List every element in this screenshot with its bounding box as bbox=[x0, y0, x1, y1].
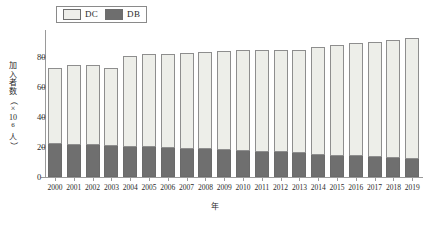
x-axis-line bbox=[45, 177, 423, 178]
x-axis-tick bbox=[299, 177, 300, 181]
bar-2019 bbox=[405, 38, 419, 178]
bar-segment-db bbox=[180, 149, 194, 178]
bar-2010 bbox=[236, 50, 250, 178]
bar-2000 bbox=[48, 68, 62, 178]
bar-2016 bbox=[349, 43, 363, 177]
x-axis-tick bbox=[412, 177, 413, 181]
x-axis-tick-label: 2001 bbox=[66, 183, 81, 192]
bar-segment-db bbox=[198, 149, 212, 177]
bar-segment-dc bbox=[330, 45, 344, 156]
x-axis-tick-label: 2016 bbox=[348, 183, 363, 192]
bar-2007 bbox=[180, 53, 194, 178]
bar-segment-dc bbox=[217, 51, 231, 151]
bar-2013 bbox=[292, 50, 306, 178]
bar-segment-dc bbox=[311, 47, 325, 155]
bar-segment-dc bbox=[180, 53, 194, 149]
x-axis-tick bbox=[130, 177, 131, 181]
bar-segment-dc bbox=[274, 50, 288, 152]
bar-segment-db bbox=[311, 155, 325, 177]
bar-2001 bbox=[67, 65, 81, 177]
x-axis-tick-label: 2018 bbox=[386, 183, 401, 192]
legend-label-dc: DC bbox=[85, 10, 98, 19]
bar-segment-dc bbox=[48, 68, 62, 145]
bar-segment-dc bbox=[368, 42, 382, 157]
bar-2009 bbox=[217, 51, 231, 177]
bar-segment-db bbox=[217, 150, 231, 177]
bar-2008 bbox=[198, 52, 212, 177]
x-axis-tick bbox=[205, 177, 206, 181]
bar-2012 bbox=[274, 50, 288, 177]
bar-segment-db bbox=[368, 157, 382, 177]
x-axis-tick bbox=[375, 177, 376, 181]
bar-2003 bbox=[104, 68, 118, 177]
y-axis-title-char-4: （ bbox=[9, 93, 18, 109]
bar-segment-db bbox=[255, 152, 269, 178]
legend-swatch-icon-db bbox=[105, 9, 123, 20]
bar-segment-dc bbox=[236, 50, 250, 152]
x-axis-tick-label: 2008 bbox=[198, 183, 213, 192]
bar-segment-db bbox=[236, 151, 250, 177]
bar-2017 bbox=[368, 42, 382, 177]
bar-segment-dc bbox=[405, 38, 419, 159]
chart-legend: DC DB bbox=[56, 6, 147, 23]
x-axis-tick-label: 2019 bbox=[405, 183, 420, 192]
y-axis-title: 加 入 者 数 （ × 106 人 ） bbox=[5, 62, 21, 151]
x-axis-tick bbox=[187, 177, 188, 181]
bar-segment-dc bbox=[142, 54, 156, 147]
x-axis-tick bbox=[356, 177, 357, 181]
x-axis-tick bbox=[224, 177, 225, 181]
x-axis-tick-label: 2009 bbox=[217, 183, 232, 192]
x-axis-tick bbox=[262, 177, 263, 181]
y-axis-title-char-9: ） bbox=[9, 139, 18, 155]
legend-swatch-icon-dc bbox=[63, 9, 81, 20]
x-axis-tick bbox=[393, 177, 394, 181]
bar-segment-db bbox=[48, 144, 62, 177]
bar-segment-dc bbox=[292, 50, 306, 153]
x-axis-tick bbox=[243, 177, 244, 181]
y-axis-tick bbox=[41, 177, 46, 178]
x-axis-tick-label: 2007 bbox=[179, 183, 194, 192]
bar-2004 bbox=[123, 56, 137, 177]
bar-segment-dc bbox=[255, 50, 269, 151]
bar-segment-db bbox=[386, 158, 400, 177]
bar-2002 bbox=[86, 65, 100, 177]
bar-segment-db bbox=[274, 152, 288, 177]
y-axis-title-char-6: 106 bbox=[5, 114, 21, 134]
x-axis-tick-label: 2011 bbox=[254, 183, 269, 192]
x-axis-tick bbox=[93, 177, 94, 181]
x-axis-tick bbox=[318, 177, 319, 181]
legend-label-db: DB bbox=[127, 10, 140, 19]
chart-figure: DC DB 加 入 者 数 （ × 106 人 ） 020406080 2000… bbox=[0, 0, 430, 227]
bar-segment-dc bbox=[349, 43, 363, 157]
bar-segment-db bbox=[405, 159, 419, 177]
bar-segment-db bbox=[142, 147, 156, 177]
x-axis-tick-label: 2005 bbox=[142, 183, 157, 192]
bar-segment-dc bbox=[386, 40, 400, 158]
x-axis-tick-label: 2015 bbox=[330, 183, 345, 192]
bar-segment-dc bbox=[161, 54, 175, 148]
x-axis-tick-label: 2010 bbox=[236, 183, 251, 192]
bar-segment-db bbox=[292, 153, 306, 177]
bar-segment-db bbox=[161, 148, 175, 177]
bar-segment-db bbox=[67, 145, 81, 177]
bar-segment-dc bbox=[123, 56, 137, 147]
x-axis-tick-label: 2013 bbox=[292, 183, 307, 192]
x-axis-tick-label: 2012 bbox=[273, 183, 288, 192]
x-axis-tick bbox=[149, 177, 150, 181]
bar-2018 bbox=[386, 40, 400, 177]
bar-segment-db bbox=[349, 156, 363, 177]
x-axis-tick bbox=[337, 177, 338, 181]
bar-2014 bbox=[311, 47, 325, 177]
x-axis-tick bbox=[74, 177, 75, 181]
bar-2015 bbox=[330, 45, 344, 177]
bar-segment-dc bbox=[67, 65, 81, 145]
bar-segment-dc bbox=[104, 68, 118, 146]
x-axis-tick-label: 2002 bbox=[85, 183, 100, 192]
x-axis-tick bbox=[168, 177, 169, 181]
x-axis-tick-label: 2004 bbox=[123, 183, 138, 192]
bar-2005 bbox=[142, 54, 156, 177]
x-axis-tick-label: 2003 bbox=[104, 183, 119, 192]
bar-segment-db bbox=[330, 156, 344, 177]
x-axis-tick bbox=[55, 177, 56, 181]
bar-segment-db bbox=[86, 145, 100, 177]
